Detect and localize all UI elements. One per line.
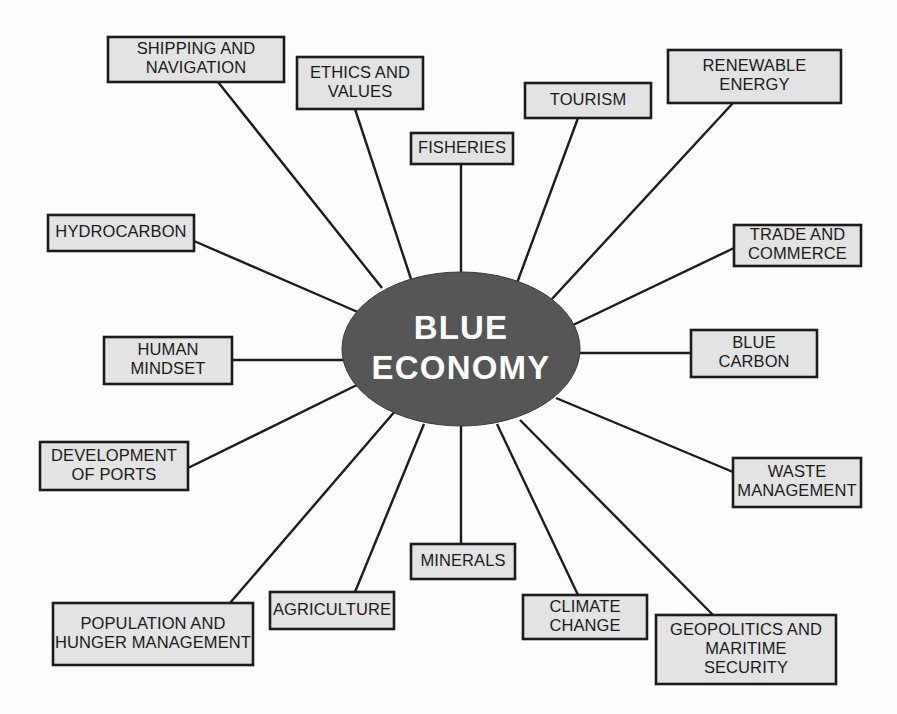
node-label-climate-change: CLIMATE	[550, 597, 621, 615]
node-label-tourism: TOURISM	[550, 90, 626, 108]
node-label-ethics-and-values: VALUES	[328, 82, 393, 100]
node-label-trade-and-commerce: TRADE AND	[750, 225, 845, 243]
node-renewable-energy[interactable]: RENEWABLEENERGY	[668, 50, 841, 103]
node-label-waste-management: WASTE	[768, 462, 827, 480]
connector-tourism	[517, 118, 578, 283]
node-label-shipping-and-navigation: NAVIGATION	[146, 58, 246, 76]
node-label-renewable-energy: ENERGY	[719, 75, 789, 93]
node-trade-and-commerce[interactable]: TRADE ANDCOMMERCE	[734, 225, 861, 266]
node-label-hydrocarbon: HYDROCARBON	[55, 222, 186, 240]
connector-geopolitics-and-maritime-security	[520, 420, 713, 615]
node-label-blue-carbon: BLUE	[732, 333, 776, 351]
node-waste-management[interactable]: WASTEMANAGEMENT	[733, 458, 861, 507]
node-minerals[interactable]: MINERALS	[411, 544, 515, 579]
node-shipping-and-navigation[interactable]: SHIPPING ANDNAVIGATION	[108, 37, 284, 82]
connector-ethics-and-values	[355, 109, 411, 279]
node-development-of-ports[interactable]: DEVELOPMENTOF PORTS	[40, 442, 188, 490]
hub-label-line1: BLUE	[414, 309, 509, 346]
connector-renewable-energy	[551, 103, 733, 300]
node-label-fisheries: FISHERIES	[418, 138, 506, 156]
node-label-climate-change: CHANGE	[549, 616, 620, 634]
node-label-ethics-and-values: ETHICS AND	[310, 63, 410, 81]
connector-trade-and-commerce	[573, 248, 734, 325]
node-agriculture[interactable]: AGRICULTURE	[270, 592, 394, 629]
node-label-agriculture: AGRICULTURE	[273, 600, 391, 618]
node-label-development-of-ports: OF PORTS	[72, 465, 157, 483]
node-label-population-and-hunger-management: HUNGER MANAGEMENT	[55, 633, 251, 651]
node-blue-carbon[interactable]: BLUECARBON	[691, 330, 817, 377]
node-label-development-of-ports: DEVELOPMENT	[51, 446, 177, 464]
node-label-shipping-and-navigation: SHIPPING AND	[137, 39, 256, 57]
connector-development-of-ports	[188, 381, 365, 468]
node-label-human-mindset: MINDSET	[131, 359, 206, 377]
node-label-geopolitics-and-maritime-security: GEOPOLITICS AND	[670, 620, 822, 638]
node-fisheries[interactable]: FISHERIES	[411, 133, 513, 164]
node-ethics-and-values[interactable]: ETHICS ANDVALUES	[297, 57, 423, 109]
hub-node[interactable]: BLUE ECONOMY	[342, 272, 580, 426]
connector-hydrocarbon	[194, 241, 360, 313]
node-climate-change[interactable]: CLIMATECHANGE	[523, 595, 647, 639]
node-label-trade-and-commerce: COMMERCE	[748, 244, 847, 262]
node-label-renewable-energy: RENEWABLE	[703, 56, 807, 74]
hub-label-line2: ECONOMY	[372, 349, 551, 386]
node-population-and-hunger-management[interactable]: POPULATION ANDHUNGER MANAGEMENT	[53, 603, 253, 665]
blue-economy-diagram: BLUE ECONOMY SHIPPING ANDNAVIGATIONETHIC…	[0, 0, 897, 714]
node-label-geopolitics-and-maritime-security: MARITIME	[705, 639, 786, 657]
node-label-blue-carbon: CARBON	[718, 352, 789, 370]
diagram-canvas: BLUE ECONOMY SHIPPING ANDNAVIGATIONETHIC…	[0, 0, 897, 714]
node-human-mindset[interactable]: HUMANMINDSET	[104, 337, 232, 384]
node-label-population-and-hunger-management: POPULATION AND	[80, 614, 225, 632]
connector-population-and-hunger-management	[230, 410, 396, 603]
node-label-waste-management: MANAGEMENT	[737, 481, 856, 499]
node-hydrocarbon[interactable]: HYDROCARBON	[48, 215, 194, 251]
connector-waste-management	[556, 398, 733, 472]
node-geopolitics-and-maritime-security[interactable]: GEOPOLITICS ANDMARITIMESECURITY	[656, 615, 836, 684]
node-label-human-mindset: HUMAN	[138, 340, 199, 358]
node-tourism[interactable]: TOURISM	[525, 83, 651, 118]
node-label-minerals: MINERALS	[420, 551, 505, 569]
node-label-geopolitics-and-maritime-security: SECURITY	[704, 658, 788, 676]
